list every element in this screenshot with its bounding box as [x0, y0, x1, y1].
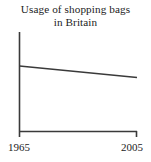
- data-series-line: [20, 66, 138, 78]
- chart-plot-area: [0, 0, 151, 162]
- x-axis-tick-label-end: 2005: [121, 141, 143, 154]
- x-axis-tick-label-start: 1965: [8, 141, 30, 154]
- chart-figure: Usage of shopping bags in Britain 1965 2…: [0, 0, 151, 162]
